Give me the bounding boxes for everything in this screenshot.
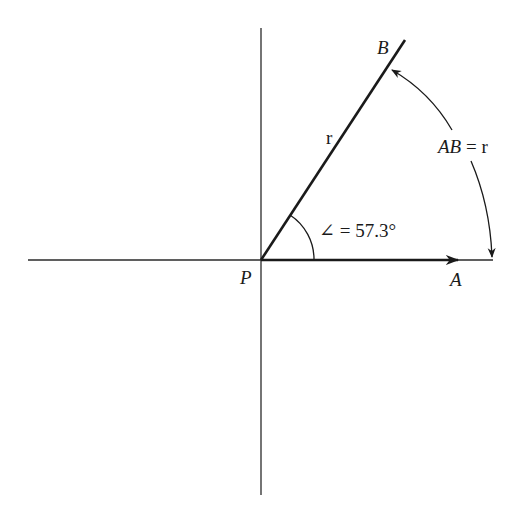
label-radius: r	[326, 127, 333, 148]
label-b: B	[377, 37, 389, 58]
radian-diagram: P A B r ∠ = 57.3° AB = r	[0, 0, 521, 512]
label-p: P	[239, 267, 252, 288]
angle-arc	[290, 215, 314, 260]
label-arc-ab: AB	[436, 136, 462, 157]
label-arc-eq: = r	[461, 136, 488, 157]
arc-arrow-to-b	[392, 70, 452, 130]
arc-arrow-to-a	[471, 161, 492, 257]
label-a: A	[448, 269, 462, 290]
label-arc-length: AB = r	[436, 136, 488, 157]
label-angle: ∠ = 57.3°	[319, 220, 396, 241]
